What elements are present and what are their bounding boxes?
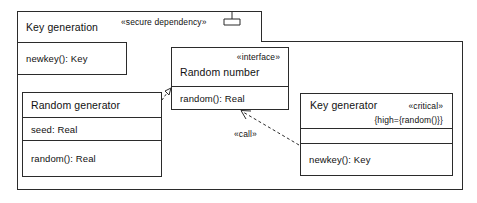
- call-dependency-label: «call»: [234, 129, 257, 139]
- subsystem-operation-box: newkey(): Key: [17, 42, 127, 75]
- interface-operations-compartment: random(): Real: [172, 87, 288, 110]
- uml-diagram-canvas: Key generation «secure dependency» newke…: [0, 0, 477, 203]
- class-attributes-compartment: seed: Real: [23, 118, 161, 141]
- class-name-label: Random generator: [31, 99, 120, 111]
- class-random-generator: Random generator seed: Real random(): Re…: [22, 92, 162, 177]
- class-name-compartment: Random generator: [23, 93, 161, 118]
- class-constraint-label: {high={random()}}: [374, 115, 443, 125]
- class-stereotype-label: «critical»: [408, 101, 443, 111]
- subsystem-name-label: Key generation: [26, 21, 98, 33]
- subsystem-fork-icon: [222, 12, 242, 26]
- class-operation-label: random(): Real: [31, 153, 96, 164]
- class-operation-label: newkey(): Key: [309, 154, 371, 165]
- class-operations-compartment: newkey(): Key: [301, 144, 452, 175]
- interface-name-label: Random number: [180, 66, 260, 78]
- subsystem-operation-compartment: newkey(): Key: [18, 43, 126, 74]
- class-operations-compartment: random(): Real: [23, 141, 161, 176]
- class-attribute-label: seed: Real: [31, 124, 77, 135]
- interface-stereotype-label: «interface»: [237, 52, 280, 62]
- interface-name-compartment: «interface» Random number: [172, 48, 288, 87]
- class-name-compartment: Key generator «critical» {high={random()…: [301, 94, 452, 129]
- interface-operation-label: random(): Real: [180, 93, 245, 104]
- class-attributes-compartment: [301, 129, 452, 144]
- subsystem-stereotype-label: «secure dependency»: [121, 17, 207, 27]
- class-key-generator: Key generator «critical» {high={random()…: [300, 93, 453, 176]
- interface-random-number: «interface» Random number random(): Real: [171, 47, 289, 110]
- subsystem-operation-label: newkey(): Key: [26, 53, 88, 64]
- class-name-label: Key generator: [310, 99, 377, 111]
